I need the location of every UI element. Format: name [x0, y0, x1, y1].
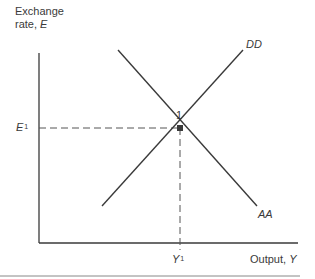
- y-axis-label: Exchange rate, E: [15, 5, 64, 31]
- e1-label: E1: [16, 121, 28, 134]
- y1-sup: 1: [180, 255, 184, 262]
- x-axis-label-text: Output,: [250, 253, 289, 265]
- y1-label: Y1: [172, 253, 184, 266]
- e1-sup: 1: [24, 123, 28, 130]
- dd-curve: [102, 50, 243, 206]
- x-axis-var: Y: [289, 253, 296, 265]
- e1-var: E: [16, 121, 23, 133]
- y-axis-label-line1: Exchange: [15, 5, 64, 18]
- equilibrium-point: [177, 125, 183, 131]
- equilibrium-label: 1: [176, 109, 182, 122]
- dd-label: DD: [246, 38, 262, 51]
- y1-var: Y: [172, 253, 179, 265]
- y-axis-label-line2: rate,: [15, 18, 40, 30]
- x-axis-label: Output, Y: [250, 253, 296, 266]
- aa-label: AA: [258, 208, 273, 221]
- y-axis-var: E: [40, 18, 47, 30]
- diagram-canvas: [0, 0, 315, 279]
